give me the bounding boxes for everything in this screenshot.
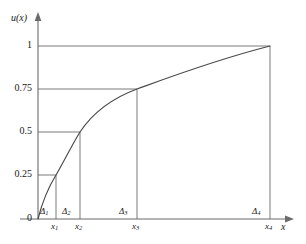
y-axis-arrow: [35, 12, 42, 21]
x4-sub: 4: [269, 224, 272, 231]
interval-label-delta3: Δ3: [119, 207, 128, 217]
x3-sub: 3: [136, 224, 139, 231]
y-tick-05: 0.5: [3, 126, 32, 136]
x1-sub: 1: [55, 224, 58, 231]
interval-label-delta1: Δ1: [40, 207, 49, 217]
interval-label-delta2: Δ2: [62, 207, 71, 217]
delta1-sub: 1: [45, 209, 48, 216]
y-axis-label: u(x): [11, 13, 27, 23]
x-tick-x4: x4: [265, 222, 272, 232]
x-tick-x3: x3: [132, 222, 139, 232]
y-tick-025: 0.25: [3, 169, 32, 179]
y-tick-075: 0.75: [3, 83, 32, 93]
y-tick-0: 0: [8, 213, 32, 223]
interval-label-delta4: Δ4: [252, 207, 261, 217]
utility-function-chart: u(x) x 1 0.75 0.5 0.25 0 Δ1 Δ2 Δ3 Δ4 x1 …: [0, 0, 306, 244]
utility-curve: [38, 46, 270, 219]
x-tick-x2: x2: [75, 222, 82, 232]
x-axis-label: x: [281, 222, 285, 232]
y-tick-1: 1: [8, 40, 32, 50]
x-tick-x1: x1: [51, 222, 58, 232]
delta3-sub: 3: [124, 209, 127, 216]
x2-sub: 2: [79, 224, 82, 231]
x-axis-arrow: [285, 216, 294, 223]
delta2-sub: 2: [67, 209, 70, 216]
delta4-sub: 4: [257, 209, 260, 216]
